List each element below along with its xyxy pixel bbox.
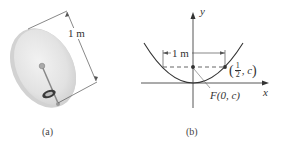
point-label: ( 1 2 , c ) xyxy=(229,62,257,79)
focus-point-icon xyxy=(191,65,195,69)
dimension-arrow-right-icon xyxy=(220,51,225,54)
caption-b: (b) xyxy=(186,126,198,137)
chord-length-label: 1 m xyxy=(172,48,189,59)
x-axis-label: x xyxy=(263,87,268,98)
dimension-arrow-left-icon xyxy=(163,51,168,54)
dish-diameter-label: 1 m xyxy=(67,28,86,39)
point-label-rest: , c xyxy=(242,65,252,76)
point-label-denominator: 2 xyxy=(236,71,240,79)
focus-label: F(0, c) xyxy=(210,90,240,101)
y-axis-label: y xyxy=(200,6,205,17)
panel-b-parabola-graph: y x 1 m F(0, c) ( 1 2 , c ) (b) xyxy=(141,0,282,143)
feed-horn-icon xyxy=(39,63,45,69)
x-axis-arrow-icon xyxy=(262,81,269,86)
satellite-dish-illustration xyxy=(0,0,141,143)
parabola-graph xyxy=(141,0,282,143)
panel-a-satellite-dish: 1 m (a) xyxy=(0,0,141,143)
curve-point-icon xyxy=(223,65,227,69)
y-axis-arrow-icon xyxy=(191,12,196,19)
caption-a: (a) xyxy=(42,126,53,137)
